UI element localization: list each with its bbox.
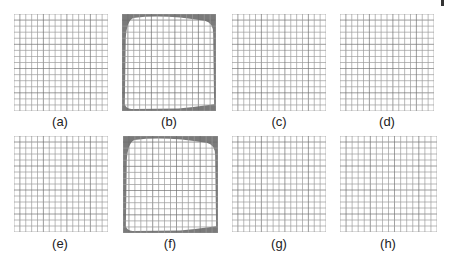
panel-label-c: (c) bbox=[249, 115, 309, 129]
grid-panel-h bbox=[340, 136, 437, 232]
grid-panel-f bbox=[123, 136, 218, 233]
grid-image bbox=[232, 136, 326, 232]
grid-image bbox=[123, 136, 218, 233]
grid-panel-g bbox=[232, 136, 326, 232]
grid-panel-e bbox=[14, 136, 108, 232]
grid-panel-d bbox=[340, 14, 434, 111]
panel-label-b: (b) bbox=[139, 115, 199, 129]
panel-label-a: (a) bbox=[30, 115, 90, 129]
panel-label-e: (e) bbox=[30, 237, 90, 251]
panel-label-d: (d) bbox=[357, 115, 417, 129]
grid-panel-b bbox=[122, 14, 216, 111]
grid-image bbox=[340, 14, 434, 111]
grid-image bbox=[14, 136, 108, 232]
grid-image bbox=[122, 14, 216, 111]
grid-panel-c bbox=[232, 14, 326, 111]
grid-panel-a bbox=[14, 14, 108, 111]
panel-label-g: (g) bbox=[249, 237, 309, 251]
grid-image bbox=[14, 14, 108, 111]
page-edge-mark bbox=[441, 0, 444, 6]
grid-image bbox=[232, 14, 326, 111]
grid-image bbox=[340, 136, 437, 232]
panel-label-f: (f) bbox=[140, 237, 200, 251]
panel-label-h: (h) bbox=[358, 237, 418, 251]
